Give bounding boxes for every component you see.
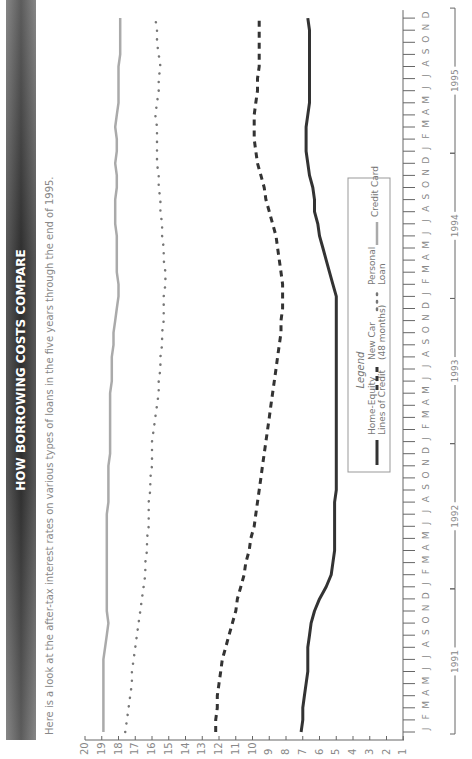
month-tick-label: M	[421, 265, 431, 273]
month-tick-label: D	[421, 447, 431, 454]
month-tick-label: M	[421, 556, 431, 564]
month-tick-label: O	[421, 617, 431, 624]
month-tick-label: S	[421, 629, 431, 635]
year-bracket	[450, 153, 455, 212]
month-tick-label: D	[421, 157, 431, 164]
month-tick-label: F	[421, 279, 431, 284]
year-bracket	[450, 8, 455, 67]
month-tick-label: N	[421, 459, 431, 466]
series-credit-card-line	[103, 18, 120, 732]
month-tick-label: S	[421, 48, 431, 54]
chart-subtitle: Here is a look at the after-tax interest…	[44, 176, 55, 735]
value-tick-label: 5	[330, 749, 341, 755]
value-tick-label: 16	[146, 742, 157, 755]
month-tick-label: J	[421, 728, 431, 732]
month-tick-label: M	[421, 531, 431, 539]
series-layer	[103, 18, 336, 732]
series-credit-card	[103, 18, 120, 732]
legend: Legend Home-Equity Lines of Credit New C…	[348, 166, 390, 472]
value-tick-label: 13	[196, 742, 207, 755]
month-tick-label: F	[421, 133, 431, 138]
year-bracket	[450, 95, 455, 154]
month-tick-label: J	[421, 437, 431, 441]
year-bracket	[450, 240, 455, 299]
month-tick-label: D	[421, 592, 431, 599]
month-tick-label: A	[421, 253, 431, 260]
legend-label-new-car-2: (48 months)	[377, 305, 387, 360]
series-personal-loan-line	[125, 18, 165, 732]
value-tick-label: 14	[180, 742, 191, 755]
year-bracket	[450, 385, 455, 444]
legend-label-home-equity-1: Home-Equity	[367, 376, 377, 435]
legend-title: Legend	[355, 351, 366, 389]
legend-item-credit-card: Credit Card	[370, 166, 380, 245]
month-tick-label: O	[421, 36, 431, 43]
month-tick-label: S	[421, 484, 431, 490]
series-new-car-48-months-line	[216, 18, 283, 732]
month-tick-label: N	[421, 605, 431, 612]
month-tick-label: N	[421, 169, 431, 176]
month-tick-label: J	[421, 655, 431, 659]
month-tick-label: J	[421, 377, 431, 381]
year-label: 1994	[450, 214, 460, 237]
month-tick-label: J	[421, 522, 431, 526]
value-tick-label: 9	[263, 749, 274, 755]
month-tick-label: A	[421, 689, 431, 696]
month-tick-label: D	[421, 12, 431, 19]
series-home-equity-lines-of-credit	[301, 18, 336, 732]
month-tick-label: J	[421, 292, 431, 296]
month-tick-label: D	[421, 302, 431, 309]
month-tick-label: N	[421, 314, 431, 321]
month-tick-label: M	[421, 241, 431, 249]
value-tick-label: 4	[347, 749, 358, 755]
month-tick-label: J	[421, 667, 431, 671]
value-tick-label: 11	[230, 742, 241, 755]
value-tick-label: 20	[79, 742, 90, 755]
value-tick-label: 8	[280, 749, 291, 755]
year-label: 1991	[450, 650, 460, 673]
month-tick-label: N	[421, 24, 431, 31]
value-tick-label: 19	[96, 742, 107, 755]
value-tick-label: 12	[213, 742, 224, 755]
month-tick-label: A	[421, 108, 431, 115]
month-tick-label: M	[421, 677, 431, 685]
year-label: 1992	[450, 505, 460, 528]
month-tick-label: O	[421, 181, 431, 188]
month-tick-label: M	[421, 386, 431, 394]
month-tick-label: O	[421, 471, 431, 478]
month-tick-label: J	[421, 510, 431, 514]
value-tick-label: 10	[247, 742, 258, 755]
year-label: 1993	[450, 360, 460, 383]
month-tick-label: J	[421, 232, 431, 236]
value-tick-label: 17	[129, 742, 140, 755]
x-axis: JFMAMJJASONDJFMAMJJASONDJFMAMJJASONDJFMA…	[403, 8, 460, 740]
month-tick-label: J	[421, 86, 431, 90]
month-tick-label: A	[421, 350, 431, 357]
month-tick-label: A	[421, 495, 431, 502]
year-bracket	[450, 530, 455, 589]
value-tick-label: 7	[297, 749, 308, 755]
month-tick-label: M	[421, 120, 431, 128]
legend-label-credit-card: Credit Card	[370, 166, 380, 217]
month-tick-label: M	[421, 701, 431, 709]
year-label: 1995	[450, 69, 460, 92]
year-bracket	[450, 299, 455, 358]
chart: HOW BORROWING COSTS COMPARE Here is a lo…	[0, 0, 472, 759]
month-tick-label: S	[421, 193, 431, 199]
month-tick-label: F	[421, 569, 431, 574]
month-tick-label: S	[421, 339, 431, 345]
month-tick-label: F	[421, 424, 431, 429]
month-tick-label: M	[421, 96, 431, 104]
month-tick-label: O	[421, 326, 431, 333]
value-tick-label: 3	[364, 749, 375, 755]
month-tick-label: A	[421, 640, 431, 647]
month-tick-label: A	[421, 60, 431, 67]
value-tick-label: 15	[163, 742, 174, 755]
legend-item-personal-loan: Personal Loan	[367, 247, 387, 310]
month-tick-label: A	[421, 544, 431, 551]
month-tick-label: A	[421, 398, 431, 405]
y-axis: 1234567891011121314151617181920	[79, 736, 408, 755]
month-tick-label: A	[421, 205, 431, 212]
legend-label-personal-loan-2: Loan	[377, 263, 387, 285]
value-tick-label: 2	[381, 749, 392, 755]
